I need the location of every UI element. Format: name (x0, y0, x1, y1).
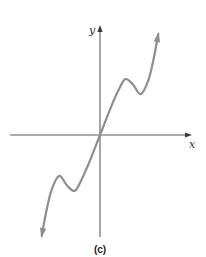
x-axis-label: x (189, 138, 196, 151)
y-axis-label: y (88, 24, 96, 37)
x-axis-arrow-icon (185, 132, 192, 137)
figure-caption: (c) (94, 244, 106, 255)
y-axis-arrow-icon (97, 25, 102, 32)
function-graph: y x (c) (0, 0, 206, 257)
